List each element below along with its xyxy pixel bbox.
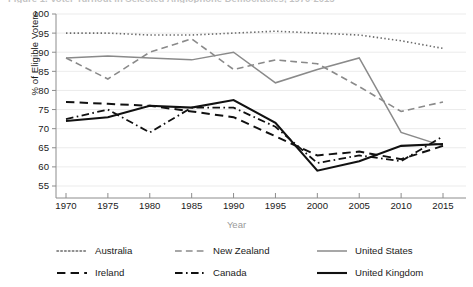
legend-item-ireland[interactable]: Ireland (56, 267, 174, 279)
y-tick-label: 65 (38, 142, 49, 153)
x-tick-label: 2005 (349, 200, 370, 211)
legend-item-united-states[interactable]: United States (316, 245, 466, 257)
x-tick-label: 1975 (97, 200, 118, 211)
legend-label: United Kingdom (355, 267, 423, 279)
x-tick-label: 1990 (223, 200, 244, 211)
legend-label: Canada (213, 267, 247, 279)
chart-legend: AustraliaNew ZealandUnited StatesIreland… (56, 240, 468, 284)
series-line-canada (66, 108, 443, 163)
y-tick-label: 55 (38, 180, 49, 191)
legend-label: Ireland (95, 267, 124, 279)
series-line-new-zealand (66, 39, 443, 112)
legend-item-united-kingdom[interactable]: United Kingdom (316, 267, 466, 279)
legend-label: Australia (95, 245, 132, 257)
legend-swatch-solid-icon (316, 245, 348, 257)
x-tick-label: 1985 (181, 200, 202, 211)
plot-area: 5560657075808590951001970197519801985199… (0, 0, 473, 230)
y-tick-label: 95 (38, 28, 49, 39)
y-tick-label: 60 (38, 161, 49, 172)
series-line-australia (66, 31, 443, 48)
legend-label: New Zealand (213, 245, 270, 257)
y-tick-label: 90 (38, 47, 49, 58)
legend-swatch-dashed-icon (56, 267, 88, 279)
legend-item-australia[interactable]: Australia (56, 245, 174, 257)
y-tick-label: 70 (38, 123, 49, 134)
y-tick-label: 100 (33, 8, 49, 19)
legend-swatch-dotted-icon (56, 245, 88, 257)
x-tick-label: 2015 (432, 200, 453, 211)
y-tick-label: 75 (38, 104, 49, 115)
x-tick-label: 2010 (390, 200, 411, 211)
x-tick-label: 1995 (265, 200, 286, 211)
x-tick-label: 2000 (307, 200, 328, 211)
legend-swatch-solid-icon (316, 267, 348, 279)
y-tick-label: 80 (38, 85, 49, 96)
x-axis-label: Year (0, 219, 473, 230)
legend-item-new-zealand[interactable]: New Zealand (174, 245, 316, 257)
legend-swatch-dashed-icon (174, 245, 206, 257)
series-line-united-states (66, 52, 443, 146)
legend-row: IrelandCanadaUnited Kingdom (56, 262, 468, 284)
x-tick-label: 1970 (55, 200, 76, 211)
voter-turnout-chart: Figure 1. Voter Turnout in Selected Angl… (0, 0, 473, 287)
legend-swatch-dashdot-icon (174, 267, 206, 279)
x-tick-label: 1980 (139, 200, 160, 211)
legend-item-canada[interactable]: Canada (174, 267, 316, 279)
legend-row: AustraliaNew ZealandUnited States (56, 240, 468, 262)
legend-label: United States (355, 245, 413, 257)
y-tick-label: 85 (38, 66, 49, 77)
series-line-united-kingdom (66, 100, 443, 171)
